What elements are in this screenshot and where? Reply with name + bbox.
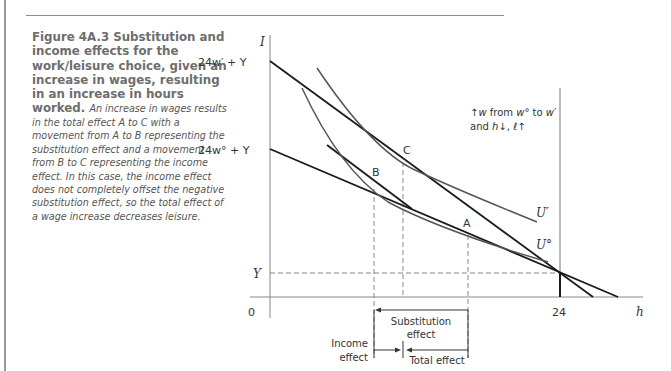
tick-w1-intercept-label: 24w′ + Y (198, 56, 247, 69)
substitution-effect-label-1: Substitution (391, 316, 451, 327)
y-axis-label: I (259, 35, 265, 49)
wage-change-annotation-line1: ↑w from w° to w′ (470, 107, 557, 118)
total-arrowhead-icon (406, 348, 412, 353)
origin-label: 0 (248, 306, 255, 319)
income-effect-label-2: effect (339, 352, 368, 363)
tick-w0-intercept-label: 24w° + Y (198, 144, 250, 157)
substitution-arrowhead-icon (375, 308, 381, 313)
wage-change-annotation-line2: and h↓, ℓ↑ (470, 121, 526, 132)
point-A-label: A (463, 217, 471, 230)
curve-U-prime-label: U′ (536, 206, 549, 220)
x-axis-label: h (636, 305, 644, 319)
tick-24-label: 24 (552, 306, 566, 319)
income-effect-label-1: Income (331, 338, 368, 349)
indifference-curve-U-prime (317, 68, 537, 222)
tick-Y-label: Y (253, 267, 262, 281)
substitution-effect-label-2: effect (407, 329, 436, 340)
income-arrowhead-icon (395, 348, 401, 353)
point-B-label: B (372, 166, 380, 179)
point-C-label: C (403, 144, 411, 157)
total-effect-label: Total effect (408, 355, 464, 366)
work-leisure-chart: I h 0 24 Y 24w° + Y 24w′ + Y B C A U′ U°… (0, 0, 671, 371)
budget-line-w-zero (270, 149, 618, 297)
curve-U-zero-label: U° (536, 238, 552, 252)
